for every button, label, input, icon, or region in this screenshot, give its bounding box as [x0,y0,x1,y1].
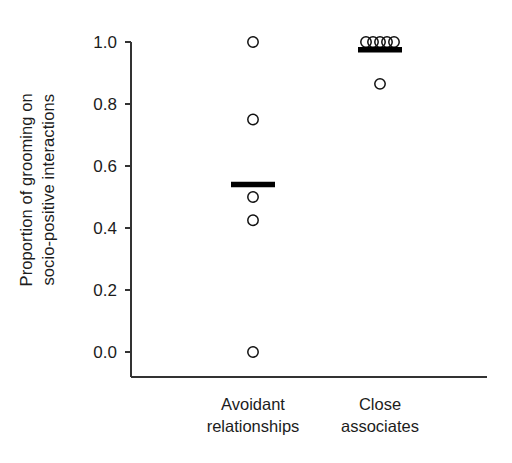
y-tick-label-group: 0.00.20.40.60.81.0 [93,33,117,362]
data-point [248,347,258,357]
y-tick-label: 1.0 [93,33,117,52]
y-tick-label: 0.2 [93,281,117,300]
data-point [248,37,258,47]
mean-bar-group [231,50,402,185]
data-point [248,192,258,202]
y-tick-mark-group [125,42,131,352]
data-point [375,79,385,89]
data-point-group [248,37,399,357]
category-label-group: AvoidantrelationshipsCloseassociates [207,395,419,435]
data-point [389,37,399,47]
category-label-line1: Close [359,395,401,413]
y-tick-label: 0.6 [93,157,117,176]
data-point [248,215,258,225]
chart-figure: Proportion of grooming on socio-positive… [0,0,512,463]
data-point [248,114,258,124]
y-tick-label: 0.0 [93,343,117,362]
y-tick-label: 0.4 [93,219,117,238]
plot-area: 0.00.20.40.60.81.0 Avoidantrelationships… [0,0,512,463]
y-tick-label: 0.8 [93,95,117,114]
category-label-line2: associates [341,417,419,435]
category-label-line2: relationships [207,417,300,435]
category-label-line1: Avoidant [221,395,285,413]
